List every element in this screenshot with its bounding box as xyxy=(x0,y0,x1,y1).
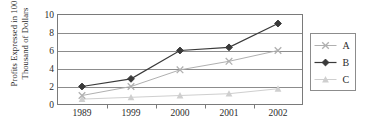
legend-label: B xyxy=(343,57,350,68)
line-chart: Profits Expressed in 100 Thousand of Dol… xyxy=(0,0,368,134)
plot-area: ABC xyxy=(0,0,368,134)
diamond-icon xyxy=(177,47,184,54)
series-layer xyxy=(79,20,282,102)
series-line-b xyxy=(82,24,278,87)
diamond-icon xyxy=(128,75,135,82)
x-axis-tick-marks xyxy=(108,105,255,109)
diamond-icon xyxy=(79,83,86,90)
series-line-a xyxy=(82,51,278,96)
diamond-icon xyxy=(226,44,233,51)
legend-label: C xyxy=(343,74,350,85)
chart-legend: ABC xyxy=(311,34,356,91)
legend-label: A xyxy=(343,40,351,51)
gridlines xyxy=(58,34,303,88)
diamond-icon xyxy=(275,20,282,27)
plot-border xyxy=(58,15,303,105)
series-b xyxy=(79,20,282,90)
